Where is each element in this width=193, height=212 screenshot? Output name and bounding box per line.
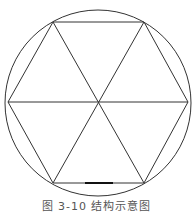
figure-caption: 图 3-10 结构示意图	[0, 199, 193, 212]
diagonals	[8, 22, 188, 183]
hexagon-circle-diagram	[0, 0, 193, 200]
